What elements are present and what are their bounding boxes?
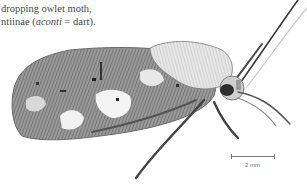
scale-bar-tick-left [231, 154, 232, 159]
antennae [232, 0, 307, 88]
scale-bar-label: 2 mm [245, 162, 260, 168]
scale-bar-line [231, 156, 274, 157]
scale-bar-tick-right [274, 154, 275, 159]
scale-bar [231, 154, 276, 160]
head [220, 76, 244, 100]
